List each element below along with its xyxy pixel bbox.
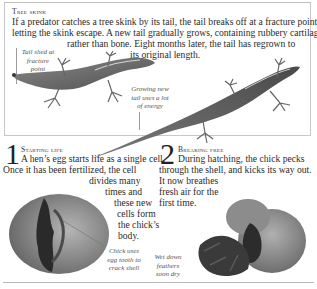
caption-egg-tooth: Chick uses egg tooth to crack shell (102, 247, 146, 273)
step-1-line-7: the chick’s (118, 219, 159, 230)
step-1-line-3: divides many (89, 175, 140, 186)
step-2-line-2: through the shell, and kicks its way out… (159, 164, 312, 175)
chick-hatched-image (190, 195, 310, 281)
skink-heading: Tree skink (12, 7, 46, 16)
egg-cracking-image (4, 190, 116, 278)
step-1-line-8: body. (118, 230, 139, 241)
caption-line: egg tooth to (102, 256, 146, 265)
skink-text-line-1: If a predator catches a tree skink by it… (12, 16, 317, 27)
caption-line: soon dry (148, 270, 188, 279)
caption-line: crack shell (102, 264, 146, 273)
step-1-line-1: A hen’s egg starts life as a single cell… (21, 153, 165, 164)
caption-line: feathers (148, 262, 188, 271)
step-1-line-5: these new (114, 197, 152, 208)
caption-line: Chick uses (102, 247, 146, 256)
step-1-line-6: cells form (117, 208, 156, 219)
caption-wet-down: Wet down feathers soon dry (148, 253, 188, 279)
step-1-line-2: Once it has been fertilized, the cell (3, 164, 136, 175)
skink-text-line-3: rather than bone. Eight months later, th… (67, 38, 295, 49)
caption-line: Wet down (148, 253, 188, 262)
bottom-rule (3, 282, 314, 283)
step-2-line-3: It now breathes (159, 175, 218, 186)
skink-text-line-2: letting the skink escape. A new tail gra… (12, 27, 317, 38)
step-2-line-1: During hatching, the chick pecks (178, 153, 305, 164)
